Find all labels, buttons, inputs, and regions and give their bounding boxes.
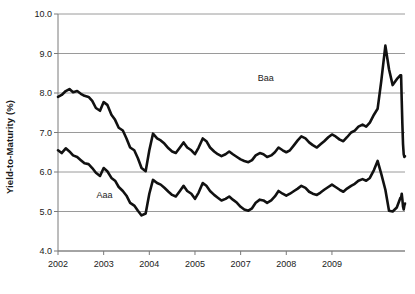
series-label-aaa: Aaa	[97, 189, 113, 200]
series-line-baa	[58, 46, 405, 172]
series-label-baa: Baa	[258, 72, 274, 83]
series-line-aaa	[58, 148, 405, 215]
plot-area	[0, 0, 415, 294]
y-axis-ticks	[54, 14, 58, 251]
x-axis-ticks	[58, 251, 332, 255]
chart-container: Yield-to-Maturity (%) 10.09.08.07.06.05.…	[0, 0, 415, 294]
